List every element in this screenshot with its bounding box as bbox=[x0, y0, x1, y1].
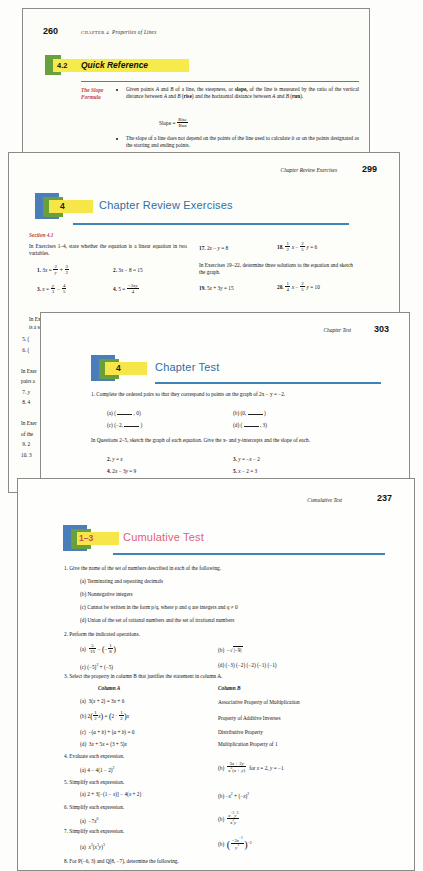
cumulative-q6-a: (a) −7x0 bbox=[80, 815, 98, 826]
margin-label-line2: Formula bbox=[81, 94, 101, 100]
cumulative-q3-c-right: Distributive Property bbox=[218, 729, 263, 736]
cumulative-q7-b: (b) (−2x−1y2)−2 bbox=[218, 837, 252, 849]
cumulative-q5-a: (a) 2 + 3[−(1 − x)] − 4(x + 2) bbox=[80, 790, 141, 799]
cumulative-q7: 7. Simplify each expression. bbox=[64, 828, 124, 835]
part-text: Union of the set of rational numbers and… bbox=[88, 617, 235, 623]
running-head-chapter-review: Chapter Review Exercises bbox=[281, 167, 337, 173]
cumulative-q3-d-right: Multiplication Property of 1 bbox=[218, 741, 278, 748]
exercise-3: 3. x = y3 − 45 bbox=[37, 283, 67, 294]
chapter-test-rule bbox=[155, 382, 381, 384]
exercise-17: 17. 2x − y = 8 bbox=[199, 244, 228, 253]
q1-part-b: (b) (0, ) bbox=[233, 409, 266, 418]
bullet-item: Given points A and B of a line, the stee… bbox=[126, 86, 359, 101]
part-text: Nonnegative integers bbox=[88, 591, 133, 597]
cumulative-q1-d: (d) Union of the set of rational numbers… bbox=[80, 617, 400, 624]
part-label: (d) bbox=[80, 617, 86, 623]
chapter-number: 1–3 bbox=[79, 533, 93, 543]
formula-fraction: Rise Run bbox=[177, 117, 188, 128]
cumulative-q4-a: (a) 4 − 4(1 − 2)2 bbox=[80, 764, 115, 775]
cumulative-q2-a: (a) 516 − (−18) bbox=[80, 643, 116, 654]
part-label: (b) bbox=[80, 591, 86, 597]
cumulative-q3-a-right: Associative Property of Multiplication bbox=[218, 699, 300, 706]
exercise-2: 2. 3x − 8 = 15 bbox=[113, 266, 143, 275]
column-b-header: Column B bbox=[218, 685, 241, 692]
cumulative-q3-b-right: Property of Additive Inverses bbox=[218, 715, 281, 722]
chapter-number: 4 bbox=[60, 201, 65, 211]
chapter-review-intro-2: In Exercises 19–22, determine three solu… bbox=[199, 262, 353, 276]
chapter-review-head: 4 Chapter Review Exercises bbox=[35, 193, 235, 219]
chapter-test-item-2: 2. y = x bbox=[107, 455, 123, 464]
formula-numerator: Rise bbox=[177, 117, 188, 122]
chapter-test-item-5: 5. x − 2 = 3 bbox=[233, 467, 257, 476]
cumulative-q8: 8. For P(−6, 3) and Q(8, −7), determine … bbox=[64, 858, 179, 865]
q1-part-c: (c) (−2, ) bbox=[107, 421, 142, 430]
bullet-item: The slope of a line does not depend on t… bbox=[126, 135, 359, 150]
cumulative-test-rule bbox=[113, 553, 385, 555]
q1-part-d: (d) ( , 3) bbox=[233, 421, 267, 430]
cumulative-q2-b: (b) −√|−9| bbox=[218, 646, 243, 655]
cumulative-q1-b: (b) Nonnegative integers bbox=[80, 591, 400, 598]
cumulative-q7-a: (a) x2(x3y)3 bbox=[80, 841, 105, 852]
cumulative-q2: 2. Perform the indicated operations. bbox=[64, 631, 384, 638]
cumulative-q2-d: (d) (−3) (−2) (−2) (−1) (−1) bbox=[218, 661, 277, 670]
section-rule bbox=[81, 81, 359, 82]
exercise-19: 19. 5x + 3y = 15 bbox=[199, 284, 234, 293]
section-label: Section 4.1 bbox=[29, 232, 54, 239]
folio-260: 260 bbox=[43, 26, 58, 36]
chapter-test-title: Chapter Test bbox=[155, 361, 220, 373]
sheet-cumulative-test: Cumulative Test 237 1–3 Cumulative Test … bbox=[17, 478, 415, 871]
cumulative-q5-b: (b) −x2 + (−x)2 bbox=[218, 790, 249, 801]
cumulative-q4: 4. Evaluate each expression. bbox=[64, 753, 124, 760]
cumulative-q5: 5. Simplify each expression. bbox=[64, 779, 124, 786]
quick-reference-bullets: Given points A and B of a line, the stee… bbox=[119, 86, 359, 104]
exercise-4: 4. 5 = −3xy4 bbox=[113, 283, 139, 294]
cumulative-q1-c: (c) Cannot be written in the form p/q, w… bbox=[80, 604, 400, 611]
formula-denominator: Run bbox=[177, 122, 188, 128]
chapter-review-intro-1: In Exercises 1–4, state whether the equa… bbox=[29, 243, 187, 257]
cumulative-q3-c-left: (c) −(a + b) + (a + b) = 0 bbox=[80, 728, 134, 737]
formula-label: Slope = bbox=[159, 120, 175, 126]
running-head-quick-reference: CHAPTER 4 Properties of Lines bbox=[81, 29, 156, 35]
cumulative-q3: 3. Select the property in column B that … bbox=[64, 673, 394, 680]
chapter-test-q1: 1. Complete the ordered pairs so that th… bbox=[91, 391, 377, 398]
running-head-chapter: CHAPTER 4 bbox=[81, 30, 109, 35]
cumulative-test-head: 1–3 Cumulative Test bbox=[63, 525, 263, 551]
chapter-review-title: Chapter Review Exercises bbox=[99, 199, 233, 211]
cumulative-q3-b-left: (b) 2(12x) = (2 · 12)x bbox=[80, 710, 129, 721]
cumulative-q2-c: (c) (−5)2 + (−5) bbox=[80, 661, 113, 672]
part-label: (a) bbox=[80, 578, 86, 584]
running-head-cumulative-test: Cumulative Test bbox=[307, 497, 342, 503]
running-head-title: Properties of Lines bbox=[112, 29, 156, 35]
folio-299: 299 bbox=[362, 164, 377, 174]
chapter-test-head: 4 Chapter Test bbox=[91, 355, 271, 381]
exercise-20: 20. 14 x − 25 y = 10 bbox=[277, 281, 320, 292]
section-title: Quick Reference bbox=[81, 60, 148, 70]
head-yellow-highlight bbox=[105, 362, 147, 375]
part-label: (c) bbox=[80, 604, 86, 610]
head-yellow-highlight bbox=[49, 200, 93, 213]
cumulative-q4-b: (b) 3x + 2yx2(x + y) for x = 2, y = −1 bbox=[218, 761, 284, 773]
sheet-chapter-test: Chapter Test 303 4 Chapter Test 1. Compl… bbox=[40, 312, 410, 494]
cumulative-q1: 1. Give the name of the set of numbers d… bbox=[64, 565, 384, 572]
chapter-number: 4 bbox=[116, 363, 121, 373]
chapter-test-item-3: 3. y = −x − 2 bbox=[233, 455, 260, 464]
exercise-1: 1. 3x = 2y + 32 bbox=[37, 264, 69, 275]
sheet-quick-reference: 260 CHAPTER 4 Properties of Lines 4.2 Qu… bbox=[22, 8, 370, 162]
column-a-header: Column A bbox=[98, 685, 120, 692]
q1-part-a: (a) ( , 0) bbox=[107, 409, 141, 418]
cumulative-q6: 6. Simplify each expression. bbox=[64, 804, 124, 811]
slope-formula: Slope = Rise Run bbox=[159, 117, 188, 128]
quick-reference-bullets-2: The slope of a line does not depend on t… bbox=[119, 135, 359, 153]
cumulative-q3-a-left: (a) 3(x + 2) = 3x + 6 bbox=[80, 697, 124, 706]
margin-label-line1: The Slope bbox=[81, 87, 103, 93]
chapter-review-rule bbox=[73, 223, 349, 225]
cumulative-q3-d-left: (d) 3x + 5x = (3 + 5)x bbox=[80, 740, 127, 749]
cumulative-q6-b: (b) x−5y3x3y bbox=[218, 812, 240, 824]
folio-303: 303 bbox=[374, 324, 389, 334]
exercise-18: 18. 12 x − 25 y = 6 bbox=[277, 241, 317, 252]
part-text: Terminating and repeating decimals bbox=[87, 578, 163, 584]
chapter-test-q2-intro: In Questions 2–5, sketch the graph of ea… bbox=[91, 437, 381, 444]
chapter-test-item-4: 4. 2x − 3y = 9 bbox=[107, 467, 136, 476]
section-number: 4.2 bbox=[57, 61, 67, 70]
